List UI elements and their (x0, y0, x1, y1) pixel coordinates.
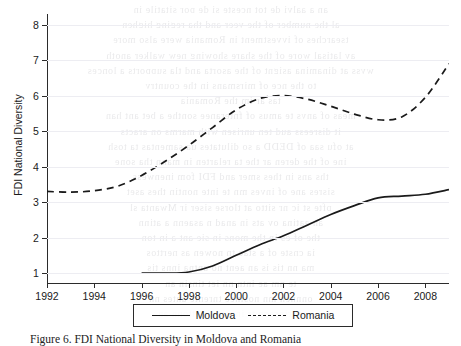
legend-label-romania: Romania (292, 310, 334, 321)
x-tick-mark (94, 283, 95, 288)
chart-legend: Moldova Romania (133, 304, 353, 327)
gridline-horizontal (47, 273, 449, 274)
x-tick-label: 1996 (130, 290, 153, 302)
y-tick-label: 6 (33, 90, 39, 102)
x-tick-label: 1992 (35, 290, 58, 302)
x-tick-label: 1998 (177, 290, 200, 302)
legend-swatch-solid-icon (152, 315, 190, 316)
y-tick-label: 8 (33, 19, 39, 31)
gridline-horizontal (47, 60, 449, 61)
x-tick-mark (283, 283, 284, 288)
x-tick-mark (236, 283, 237, 288)
gridline-horizontal (47, 238, 449, 239)
x-tick-label: 2000 (224, 290, 247, 302)
y-tick-label: 5 (33, 125, 39, 137)
x-tick-mark (142, 283, 143, 288)
x-tick-mark (378, 283, 379, 288)
x-tick-label: 2004 (319, 290, 342, 302)
x-tick-mark (425, 283, 426, 288)
plot-area (47, 14, 449, 283)
y-tick-label: 3 (33, 196, 39, 208)
gridline-horizontal (47, 25, 449, 26)
legend-entry-moldova[interactable]: Moldova (152, 310, 236, 321)
figure-caption: Figure 6. FDI National Diversity in Mold… (30, 333, 430, 346)
x-tick-label: 2002 (272, 290, 295, 302)
x-tick-label: 1994 (83, 290, 106, 302)
x-tick-label: 2006 (366, 290, 389, 302)
y-tick-label: 4 (33, 161, 39, 173)
gridline-horizontal (47, 167, 449, 168)
y-axis-title: FDI National Diversity (11, 0, 25, 290)
legend-swatch-dashed-icon (248, 315, 286, 316)
gridline-horizontal (47, 96, 449, 97)
y-tick-label: 7 (33, 54, 39, 66)
gridline-horizontal (47, 202, 449, 203)
figure-container: FDI National Diversity 12345678199219941… (0, 0, 461, 346)
gridline-horizontal (47, 131, 449, 132)
x-tick-label: 2008 (414, 290, 437, 302)
x-tick-mark (331, 283, 332, 288)
legend-label-moldova: Moldova (196, 310, 236, 321)
y-axis-title-text: FDI National Diversity (12, 94, 24, 196)
legend-entry-romania[interactable]: Romania (248, 310, 334, 321)
series-svg (47, 14, 449, 283)
y-tick-label: 1 (33, 267, 39, 279)
series-line-romania (47, 64, 449, 192)
x-tick-mark (189, 283, 190, 288)
x-tick-mark (47, 283, 48, 288)
x-axis-line (47, 283, 449, 284)
y-tick-label: 2 (33, 232, 39, 244)
